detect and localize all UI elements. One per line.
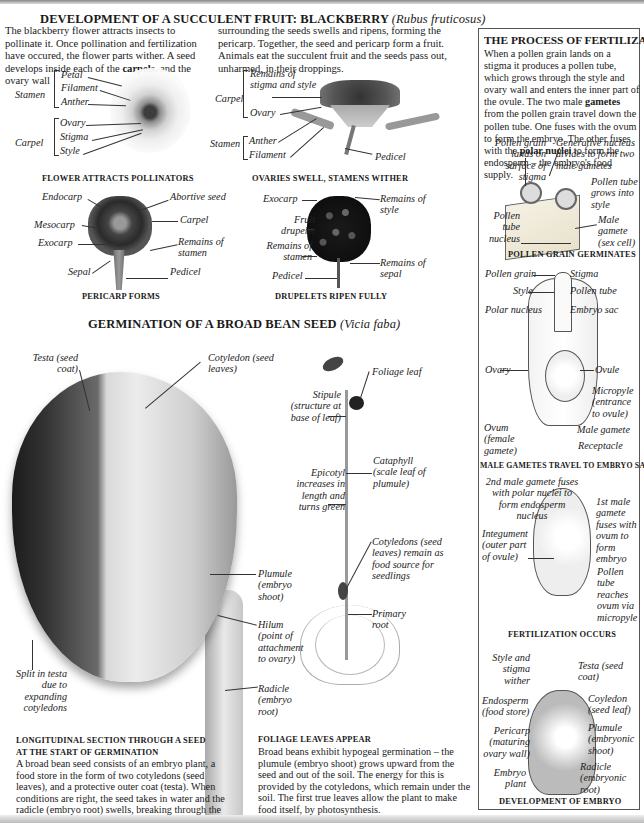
label-ovary-2: Ovary bbox=[250, 107, 275, 118]
label-male-gamete-2: Male gamete bbox=[577, 424, 630, 435]
ovule-shape bbox=[545, 350, 585, 402]
bracket bbox=[243, 136, 248, 160]
leader-line bbox=[360, 371, 369, 398]
label-stamen-2: Stamen bbox=[210, 138, 240, 149]
label-ovary: Ovary bbox=[60, 117, 85, 128]
leader-line bbox=[126, 278, 168, 279]
text-foliage-leaves: Broad beans exhibit hypogeal germination… bbox=[258, 746, 474, 816]
foliage-leaf-shape bbox=[349, 396, 364, 410]
label-male-gamete: Male gamete (sex cell) bbox=[598, 214, 640, 248]
label-pollen-grain-2: Pollen grain bbox=[485, 268, 536, 279]
label-pollen-tube-2: Pollen tube bbox=[570, 285, 617, 296]
leaf-bud-shape bbox=[320, 354, 345, 374]
label-anther-2: Anther bbox=[249, 135, 277, 146]
leader-line bbox=[152, 221, 178, 222]
leader-line bbox=[272, 97, 322, 98]
bracket bbox=[243, 70, 248, 118]
germination-title-latin: (Vicia faba) bbox=[340, 317, 400, 331]
label-cataphyll: Cataphyll (scale leaf of plumule) bbox=[373, 455, 433, 489]
label-micropyle: Micropyle (entrance to ovule) bbox=[592, 385, 640, 419]
label-remains-stigma-style: Remains of stigma and style bbox=[250, 68, 320, 91]
label-2nd-male-gamete: 2nd male gamete fuses with polar nuclei … bbox=[482, 476, 582, 522]
leader-line bbox=[355, 197, 380, 200]
label-sepal: Sepal bbox=[68, 266, 91, 277]
caption-development-embryo: DEVELOPMENT OF EMBRYO bbox=[499, 797, 622, 806]
label-fruit-drupelet: Fruit drupelet bbox=[275, 214, 315, 237]
leader-line bbox=[305, 278, 337, 279]
leader-line bbox=[328, 416, 346, 417]
label-abortive-seed: Abortive seed bbox=[170, 191, 226, 202]
label-pedicel-3: Pedicel bbox=[170, 266, 201, 277]
leader-line bbox=[500, 370, 528, 371]
blackberry-title-main: DEVELOPMENT OF A SUCCULENT FRUIT: BLACKB… bbox=[40, 12, 389, 26]
label-pedicel-2: Pedicel bbox=[375, 151, 406, 162]
keyword-gametes: gametes bbox=[585, 96, 620, 107]
leader-line bbox=[350, 263, 380, 264]
page-top-edge bbox=[0, 0, 644, 4]
label-cotyledon: Cotyledon (seed leaves) bbox=[208, 352, 276, 375]
leader-line bbox=[88, 104, 126, 106]
leader-line bbox=[521, 243, 571, 244]
label-stigma: Stigma bbox=[60, 131, 88, 142]
label-pericarp: Pericarp (maturing ovary wall) bbox=[482, 725, 530, 759]
leader-line bbox=[580, 370, 594, 371]
leader-line bbox=[32, 640, 33, 670]
label-carpel-2: Carpel bbox=[215, 93, 243, 104]
text-longitudinal-section: A broad bean seed consists of an embryo … bbox=[16, 758, 226, 823]
caption-pollen-germinates: POLLEN GRAIN GERMINATES bbox=[508, 250, 636, 259]
label-plumule-2: Plumule (embryonic shoot) bbox=[588, 722, 640, 756]
caption-longitudinal-section: LONGITUDINAL SECTION THROUGH A SEED AT T… bbox=[16, 735, 216, 758]
label-ovule: Ovule bbox=[595, 364, 619, 375]
pericarp-stalk bbox=[112, 250, 126, 290]
label-filament: Filament bbox=[61, 82, 98, 93]
caption-flower: FLOWER ATTRACTS POLLINATORS bbox=[42, 174, 194, 183]
label-style: Style bbox=[60, 145, 80, 156]
pollen-grain-shape bbox=[520, 182, 542, 204]
sepal-shape bbox=[385, 112, 440, 130]
leader-line bbox=[306, 229, 314, 230]
label-ovum: Ovum (female gamete) bbox=[484, 422, 524, 456]
label-petal: Petal bbox=[61, 69, 83, 80]
label-remains-stamen: Remains of stamen bbox=[178, 236, 228, 259]
germination-title: GERMINATION OF A BROAD BEAN SEED (Vicia … bbox=[88, 317, 400, 332]
leader-line bbox=[78, 244, 116, 245]
label-split-testa: Split in testa due to expanding cotyledo… bbox=[15, 668, 67, 714]
label-polar-nucleus: Polar nucleus bbox=[485, 304, 542, 315]
blackberry-title-latin: (Rubus fruticosus) bbox=[392, 12, 486, 26]
leader-line bbox=[346, 473, 372, 474]
caption-male-gametes-travel: MALE GAMETES TRAVEL TO EMBRYO SAC bbox=[480, 461, 644, 470]
label-stamen: Stamen bbox=[15, 89, 45, 100]
receptacle-shape bbox=[330, 105, 390, 127]
label-style-2: Style bbox=[513, 285, 533, 296]
fertilization-title: THE PROCESS OF FERTILIZATION bbox=[484, 34, 644, 46]
label-generative-nucleus: Generative nucleus divides to form two m… bbox=[556, 137, 640, 171]
label-plumule: Plumule (embryo shoot) bbox=[258, 568, 303, 602]
blackberry-fruit-image bbox=[307, 196, 371, 262]
label-cotyledons-seedling: Cotyledons (seed leaves) remain as food … bbox=[372, 536, 457, 582]
pollen-grain-shape bbox=[555, 188, 577, 210]
label-remains-stamen-4: Remains of stamen bbox=[242, 240, 312, 263]
label-style-stigma-wither: Style and stigma wither bbox=[484, 652, 530, 686]
leader-line bbox=[150, 244, 178, 251]
germination-title-main: GERMINATION OF A BROAD BEAN SEED bbox=[88, 317, 337, 331]
leader-line bbox=[92, 260, 110, 273]
label-radicle-2: Radicle (embryonic root) bbox=[580, 761, 640, 795]
label-1st-male-gamete: 1st male gamete fuses with ovum to form … bbox=[596, 496, 640, 564]
label-pollen-tube-nucleus: Pollen tube nucleus bbox=[484, 210, 520, 244]
leader-line bbox=[533, 275, 555, 276]
leader-line bbox=[348, 614, 372, 615]
label-stigma-2: Stigma bbox=[570, 268, 598, 279]
label-mesocarp: Mesocarp bbox=[34, 219, 75, 230]
label-exocarp: Exocarp bbox=[38, 237, 73, 248]
leader-line bbox=[345, 541, 372, 590]
leader-line bbox=[210, 574, 256, 575]
label-anther: Anther bbox=[61, 96, 89, 107]
leader-line bbox=[528, 292, 554, 293]
label-endosperm: Endosperm (food store) bbox=[482, 695, 530, 718]
bracket bbox=[54, 70, 59, 108]
label-pollen-grain-lands: Pollen grain lands on surface of stigma bbox=[484, 137, 546, 183]
blackberry-text-col1: The blackberry flower attracts insects t… bbox=[5, 25, 215, 88]
label-remains-style: Remains of style bbox=[380, 193, 430, 216]
swollen-ovary-image bbox=[320, 80, 400, 108]
label-pollen-tube-grows: Pollen tube grows into style bbox=[591, 176, 639, 210]
